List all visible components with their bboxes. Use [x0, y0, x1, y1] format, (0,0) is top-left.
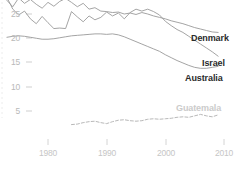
y-tick-20: 20 — [2, 33, 20, 43]
y-tick-15: 15 — [2, 57, 20, 67]
chart-plot-area — [0, 0, 239, 169]
series-label-denmark: Denmark — [191, 33, 229, 43]
y-tick-25: 25 — [2, 9, 20, 19]
line-chart: 25 20 15 10 5 1980 1990 2000 2010 Denmar… — [0, 0, 239, 169]
x-tick-2010: 2010 — [209, 148, 239, 158]
series-label-guatemala: Guatemala — [176, 103, 221, 113]
series-line-australia — [7, 34, 218, 68]
series-label-australia: Australia — [185, 73, 223, 83]
series-line-guatemala — [71, 114, 218, 124]
series-label-israel: Israel — [202, 58, 225, 68]
x-tick-1990: 1990 — [92, 148, 122, 158]
x-axis-ticks — [48, 139, 224, 145]
y-tick-10: 10 — [2, 82, 20, 92]
x-tick-1980: 1980 — [33, 148, 63, 158]
series-line-israel — [7, 0, 218, 56]
x-tick-2000: 2000 — [151, 148, 181, 158]
y-axis-ticks — [26, 14, 32, 111]
y-tick-5: 5 — [2, 106, 20, 116]
